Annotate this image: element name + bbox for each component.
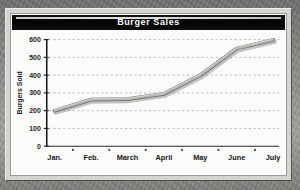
x-tick-dot (218, 149, 220, 151)
x-tick-dot (72, 149, 74, 151)
x-tick-dot (108, 149, 110, 151)
screenshot-canvas: Burger Sales 0100200300400500600 (0, 0, 300, 190)
x-axis-category-label: Jan. (47, 153, 62, 162)
x-axis-category-labels-group: Jan.Feb.MarchAprilMayJuneJuly (47, 153, 280, 162)
plot-area: 0100200300400500600 Jan.Feb.MarchAprilMa… (11, 30, 286, 175)
x-axis-category-label: Feb. (84, 153, 99, 162)
line-chart-svg: 0100200300400500600 Jan.Feb.MarchAprilMa… (11, 30, 286, 175)
chart-title-bar: Burger Sales (12, 15, 285, 30)
x-tick-dot (254, 149, 256, 151)
y-tick-label: 0 (37, 143, 41, 150)
y-tick-label: 500 (29, 54, 41, 61)
chart-card: Burger Sales 0100200300400500600 (5, 8, 292, 181)
x-tick-marks-group (72, 149, 256, 151)
data-series-line (54, 39, 274, 112)
x-axis-category-label: July (266, 153, 281, 162)
x-axis-category-label: June (228, 153, 245, 162)
y-tick-label: 300 (29, 89, 41, 96)
chart-inner-frame: Burger Sales 0100200300400500600 (10, 13, 287, 176)
x-axis-category-label: March (117, 153, 139, 162)
y-tick-label: 200 (29, 107, 41, 114)
y-axis-title: Burgers Sold (16, 71, 24, 114)
gridlines-group (49, 40, 279, 129)
x-axis-category-label: April (156, 153, 173, 162)
y-tick-labels-group: 0100200300400500600 (29, 36, 41, 149)
x-axis-category-label: May (193, 153, 207, 162)
x-tick-dot (145, 149, 147, 151)
y-tick-label: 100 (29, 125, 41, 132)
x-tick-dot (181, 149, 183, 151)
y-tick-label: 600 (29, 36, 41, 43)
y-tick-label: 400 (29, 72, 41, 79)
chart-title: Burger Sales (12, 15, 285, 30)
